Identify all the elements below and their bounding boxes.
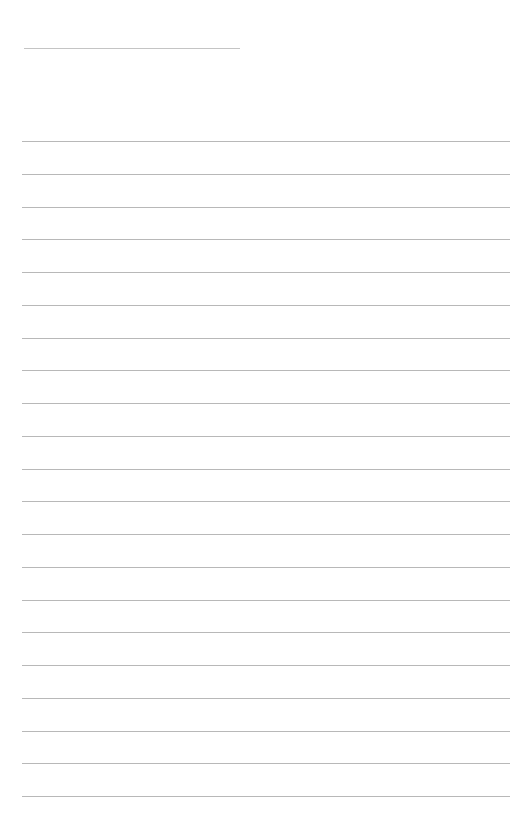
ruled-line — [22, 207, 510, 208]
ruled-line — [22, 403, 510, 404]
ruled-line — [22, 239, 510, 240]
ruled-line — [22, 567, 510, 568]
ruled-line — [22, 600, 510, 601]
ruled-line — [22, 665, 510, 666]
header-rule-line — [24, 48, 240, 49]
ruled-line — [22, 698, 510, 699]
ruled-line — [22, 305, 510, 306]
ruled-line — [22, 796, 510, 797]
ruled-line — [22, 632, 510, 633]
ruled-line — [22, 763, 510, 764]
ruled-line — [22, 370, 510, 371]
lined-paper-page — [0, 0, 527, 825]
ruled-line — [22, 174, 510, 175]
ruled-line — [22, 436, 510, 437]
ruled-line — [22, 501, 510, 502]
ruled-line — [22, 338, 510, 339]
ruled-line — [22, 534, 510, 535]
ruled-line — [22, 731, 510, 732]
ruled-line — [22, 141, 510, 142]
ruled-line — [22, 272, 510, 273]
ruled-line — [22, 469, 510, 470]
